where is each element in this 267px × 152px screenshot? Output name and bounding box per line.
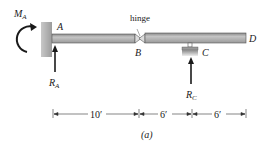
beam-segment-bd — [145, 33, 246, 43]
beam-segment-ab — [52, 34, 135, 43]
dimension-ab: 10′ — [90, 109, 102, 120]
roller-support-icon — [182, 43, 198, 56]
moment-arrow-icon — [17, 23, 37, 52]
hinge-label: hinge — [130, 13, 150, 23]
fixed-wall — [41, 22, 52, 57]
figure-caption: (a) — [141, 129, 153, 141]
point-d-label: D — [248, 33, 257, 44]
hinge-icon — [135, 29, 145, 43]
moment-label: MA — [13, 8, 27, 21]
reaction-a-arrow-icon — [52, 45, 58, 72]
dimension-bc: 6′ — [160, 109, 167, 120]
reaction-a-label: RA — [48, 77, 60, 90]
beam-diagram: MA A B C D hinge RA RC 10′ 6′ 6′ (a) — [0, 0, 267, 152]
reaction-c-label: RC — [185, 89, 197, 102]
point-a-label: A — [56, 21, 64, 32]
reaction-c-arrow-icon — [188, 57, 194, 84]
point-b-label: B — [135, 47, 141, 58]
dimension-cd: 6′ — [214, 109, 221, 120]
point-c-label: C — [202, 47, 209, 58]
